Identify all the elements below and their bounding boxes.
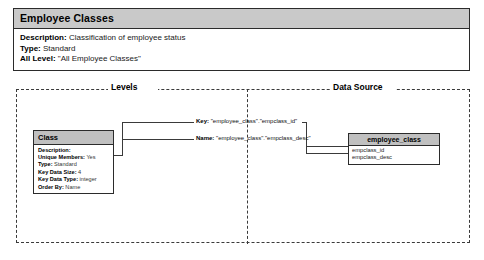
level-property-label: Key Data Size:	[38, 169, 77, 175]
source-table-box[interactable]: employee_class empclass_id empclass_desc	[348, 133, 440, 165]
level-property-value: 4	[77, 169, 82, 175]
table-connector-line-desc	[306, 153, 349, 154]
source-table-title: employee_class	[349, 134, 439, 146]
dimension-properties: Description: Classification of employee …	[14, 29, 469, 70]
property-row: All Level: "All Employee Classes"	[20, 54, 463, 65]
name-value: "employee_class"."empclass_desc"	[214, 135, 310, 141]
level-property-row: Key Data Size: 4	[38, 169, 109, 176]
panel-divider	[247, 89, 248, 244]
level-class-title: Class	[34, 131, 113, 145]
level-property-value: Standard	[53, 161, 77, 167]
property-row: Description: Classification of employee …	[20, 33, 463, 44]
level-property-value: integer	[78, 176, 97, 182]
name-label: Name:	[196, 135, 214, 141]
property-value: Classification of employee status	[67, 33, 186, 42]
connector-name-line	[122, 139, 194, 140]
table-connector-line-id	[306, 146, 349, 147]
dimension-title: Employee Classes	[14, 9, 469, 29]
level-property-value: Name	[64, 184, 80, 190]
data-source-section-label: Data Source	[333, 82, 383, 92]
source-table-column: empclass_desc	[352, 154, 436, 161]
level-property-row: Order By: Name	[38, 184, 109, 191]
level-property-value: Yes	[85, 154, 96, 160]
property-row: Type: Standard	[20, 44, 463, 55]
levels-section-label: Levels	[111, 82, 137, 92]
level-class-box[interactable]: Class Description: Unique Members: Yes T…	[33, 130, 114, 194]
level-property-label: Description:	[38, 147, 71, 153]
property-label: Description:	[20, 33, 67, 42]
connector-key-line	[122, 122, 194, 123]
key-line-tail	[302, 122, 307, 123]
level-property-label: Type:	[38, 161, 53, 167]
source-table-columns: empclass_id empclass_desc	[349, 146, 439, 164]
key-value: "employee_class"."empclass_id"	[209, 118, 297, 124]
dimension-info-box: Employee Classes Description: Classifica…	[13, 8, 470, 71]
level-property-label: Unique Members:	[38, 154, 85, 160]
source-table-column: empclass_id	[352, 147, 436, 154]
property-label: Type:	[20, 44, 41, 53]
level-property-label: Order By:	[38, 184, 64, 190]
level-class-properties: Description: Unique Members: Yes Type: S…	[34, 145, 113, 194]
key-binding: Key: "employee_class"."empclass_id"	[196, 118, 297, 124]
level-property-label: Key Data Type:	[38, 176, 78, 182]
diagram-canvas: Employee Classes Description: Classifica…	[0, 0, 484, 260]
level-property-row: Description:	[38, 147, 109, 154]
level-property-row: Type: Standard	[38, 161, 109, 168]
name-binding: Name: "employee_class"."empclass_desc"	[196, 135, 311, 141]
level-property-row: Key Data Type: integer	[38, 176, 109, 183]
property-value: "All Employee Classes"	[56, 54, 141, 63]
key-label: Key:	[196, 118, 209, 124]
property-label: All Level:	[20, 54, 56, 63]
level-property-row: Unique Members: Yes	[38, 154, 109, 161]
property-value: Standard	[41, 44, 76, 53]
